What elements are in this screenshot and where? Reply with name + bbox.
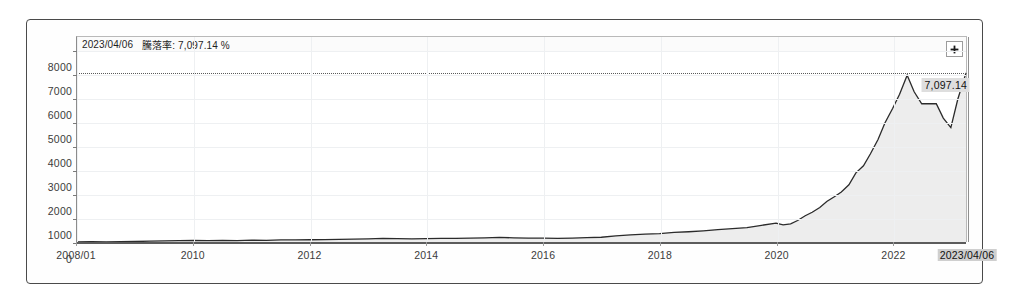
gridline-horizontal — [77, 219, 966, 220]
series-area-line — [77, 37, 966, 242]
expand-button[interactable] — [946, 41, 963, 57]
gridline-vertical — [77, 37, 78, 242]
x-tick-label: 2018 — [648, 249, 672, 261]
x-tick-label: 2014 — [414, 249, 438, 261]
performance-chart-widget: 800070006000500040003000200010000 7,097.… — [26, 19, 983, 284]
x-axis: 2008/0120102012201420162018202020222023/… — [76, 242, 967, 266]
x-tick-mark — [777, 242, 778, 246]
gridline-vertical — [194, 37, 195, 242]
series-area-fill — [77, 73, 966, 242]
x-tick-label: 2010 — [181, 249, 205, 261]
x-tick-mark — [193, 242, 194, 246]
x-tick-label: 2012 — [297, 249, 321, 261]
x-tick-label: 2022 — [881, 249, 905, 261]
x-tick-label: 2008/01 — [56, 249, 95, 261]
x-tick-label: 2016 — [531, 249, 555, 261]
tooltip-date: 2023/04/06 — [82, 39, 133, 50]
y-axis: 800070006000500040003000200010000 — [26, 36, 72, 242]
gridline-horizontal — [77, 171, 966, 172]
gridline-horizontal — [77, 147, 966, 148]
gridline-horizontal — [77, 195, 966, 196]
x-tick-mark — [543, 242, 544, 246]
x-tick-label: 2020 — [765, 249, 789, 261]
gridline-horizontal — [77, 123, 966, 124]
reference-line — [77, 73, 966, 74]
y-tick-label: 4000 — [48, 157, 72, 169]
x-tick-mark — [893, 242, 894, 246]
gridline-vertical — [661, 37, 662, 242]
y-tick-label: 1000 — [48, 229, 72, 241]
x-tick-mark — [660, 242, 661, 246]
gridline-horizontal — [77, 51, 966, 52]
gridline-vertical — [894, 37, 895, 242]
x-tick-mark — [310, 242, 311, 246]
crosshair-line — [968, 37, 969, 242]
gridline-vertical — [778, 37, 779, 242]
y-tick-label: 7000 — [48, 85, 72, 97]
y-tick-label: 2000 — [48, 205, 72, 217]
y-tick-label: 3000 — [48, 181, 72, 193]
tooltip-metric: 騰落率: 7,097.14 % — [142, 37, 230, 52]
tooltip-band: 2023/04/06 騰落率: 7,097.14 % — [77, 37, 966, 52]
gridline-horizontal — [77, 99, 966, 100]
gridline-vertical — [427, 37, 428, 242]
y-tick-label: 8000 — [48, 61, 72, 73]
x-tick-mark — [426, 242, 427, 246]
x-tick-mark — [76, 242, 77, 246]
gridline-vertical — [311, 37, 312, 242]
date-callout: 2023/04/06 — [938, 249, 997, 261]
value-callout: 7,097.14 — [922, 78, 970, 92]
y-tick-label: 6000 — [48, 109, 72, 121]
gridline-horizontal — [77, 75, 966, 76]
y-tick-label: 5000 — [48, 133, 72, 145]
plot-area[interactable]: 7,097.14 2023/04/06 騰落率: 7,097.14 % — [76, 36, 967, 242]
gridline-vertical — [544, 37, 545, 242]
